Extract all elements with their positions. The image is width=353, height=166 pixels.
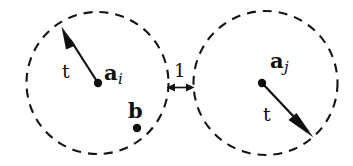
point-a-i-marker xyxy=(94,79,102,87)
vector-t-left-shaft xyxy=(71,40,99,83)
label-a-i-subscript: i xyxy=(117,70,122,88)
label-t-left: t xyxy=(62,62,70,81)
point-a-j-marker xyxy=(258,79,266,87)
point-b-marker xyxy=(133,124,141,132)
label-a-i-base: a xyxy=(104,60,117,85)
diagram-canvas xyxy=(0,0,353,166)
label-t-right: t xyxy=(263,105,271,124)
label-a-j-base: a xyxy=(270,48,283,73)
vector-t-right-arrowhead xyxy=(289,113,314,138)
label-a-j: aj xyxy=(270,50,289,75)
label-a-j-subscript: j xyxy=(283,58,288,76)
gap-measure-arrow xyxy=(167,84,195,92)
label-b: b xyxy=(128,100,142,121)
vector-t-left-arrowhead xyxy=(62,27,76,50)
vector-diagram-figure: ai aj b t t 1 xyxy=(0,0,353,166)
label-gap-distance: 1 xyxy=(174,62,185,80)
label-a-i: ai xyxy=(104,62,123,87)
